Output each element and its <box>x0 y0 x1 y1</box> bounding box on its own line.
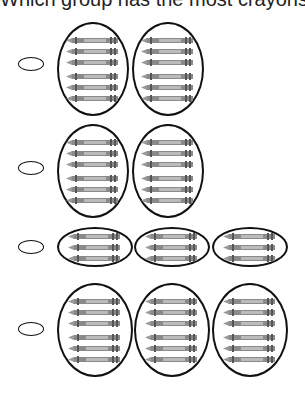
crayon-group <box>212 227 288 267</box>
crayon-icon <box>223 345 277 352</box>
crayon-icon <box>145 244 199 251</box>
crayon-icon <box>141 175 195 182</box>
crayon-icon <box>66 73 120 80</box>
answer-bubble-row-1[interactable] <box>18 57 44 71</box>
crayon-icon <box>223 334 277 341</box>
crayon-icon <box>223 233 277 240</box>
crayon-icon <box>66 59 120 66</box>
crayon-icon <box>145 233 199 240</box>
answer-bubble-row-4[interactable] <box>18 322 44 336</box>
crayon-group <box>212 283 288 377</box>
crayon-icon <box>141 73 195 80</box>
crayon-group <box>132 124 204 218</box>
crayon-icon <box>141 186 195 193</box>
crayon-icon <box>145 320 199 327</box>
crayon-icon <box>145 345 199 352</box>
crayon-icon <box>68 309 122 316</box>
crayon-icon <box>68 255 122 262</box>
crayon-icon <box>141 59 195 66</box>
crayon-icon <box>66 37 120 44</box>
crayon-icon <box>68 244 122 251</box>
crayon-icon <box>145 356 199 363</box>
crayon-group <box>57 227 133 267</box>
crayon-icon <box>141 48 195 55</box>
crayon-icon <box>145 298 199 305</box>
crayon-icon <box>223 320 277 327</box>
crayon-icon <box>66 186 120 193</box>
crayon-icon <box>141 161 195 168</box>
crayon-icon <box>66 84 120 91</box>
crayon-icon <box>66 175 120 182</box>
crayon-icon <box>66 139 120 146</box>
crayon-group <box>57 124 129 218</box>
crayon-icon <box>68 345 122 352</box>
answer-bubble-row-2[interactable] <box>18 161 44 175</box>
crayon-icon <box>145 255 199 262</box>
crayon-icon <box>141 84 195 91</box>
crayon-group <box>132 22 204 116</box>
crayon-group <box>57 22 129 116</box>
crayon-icon <box>141 150 195 157</box>
crayon-icon <box>223 244 277 251</box>
crayon-group <box>57 283 133 377</box>
crayon-icon <box>68 298 122 305</box>
crayon-icon <box>141 197 195 204</box>
crayon-icon <box>145 309 199 316</box>
crayon-icon <box>223 356 277 363</box>
crayon-icon <box>68 356 122 363</box>
crayon-icon <box>68 320 122 327</box>
crayon-icon <box>66 161 120 168</box>
crayon-icon <box>68 233 122 240</box>
question-title: Which group has the most crayons? <box>0 0 305 11</box>
crayon-icon <box>66 48 120 55</box>
crayon-icon <box>66 150 120 157</box>
crayon-icon <box>141 37 195 44</box>
crayon-icon <box>66 197 120 204</box>
crayon-group <box>134 227 210 267</box>
crayon-icon <box>66 95 120 102</box>
crayon-icon <box>223 298 277 305</box>
answer-bubble-row-3[interactable] <box>18 240 44 254</box>
crayon-icon <box>141 139 195 146</box>
crayon-icon <box>145 334 199 341</box>
crayon-icon <box>68 334 122 341</box>
crayon-group <box>134 283 210 377</box>
crayon-icon <box>223 255 277 262</box>
crayon-icon <box>141 95 195 102</box>
crayon-icon <box>223 309 277 316</box>
